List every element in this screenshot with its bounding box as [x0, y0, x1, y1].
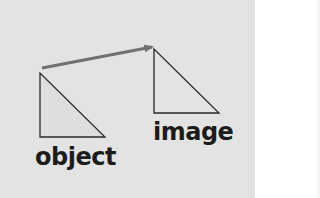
object-triangle — [40, 73, 105, 137]
diagram-canvas: object image — [0, 0, 255, 198]
object-label: object — [35, 145, 116, 169]
image-label: image — [153, 120, 233, 144]
arrow-icon — [42, 47, 152, 68]
image-triangle — [154, 49, 219, 113]
